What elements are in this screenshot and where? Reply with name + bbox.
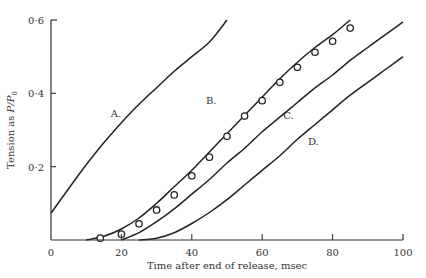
plot-area: A.B.C.D. xyxy=(51,20,403,241)
curve-label-b: B. xyxy=(206,95,217,106)
curve-label-a: A. xyxy=(110,108,121,119)
y-tick-label: 0·6 xyxy=(28,15,44,26)
x-tick-label: 100 xyxy=(393,247,412,258)
data-point-circle xyxy=(189,173,195,179)
data-point-circle xyxy=(329,38,335,44)
x-tick-label: 40 xyxy=(185,247,198,258)
y-axis-title-prefix: Tension as xyxy=(5,112,16,169)
data-point-circle xyxy=(136,221,142,227)
data-point-circle xyxy=(312,49,318,55)
y-axis-title-var: P/P xyxy=(5,95,16,113)
curve-d xyxy=(139,57,403,240)
curve-label-d: D. xyxy=(308,136,319,147)
data-point-circle xyxy=(241,113,247,119)
data-point-circle xyxy=(206,154,212,160)
x-tick-label: 0 xyxy=(48,247,54,258)
y-axis-title-sub: 0 xyxy=(11,91,19,95)
curve-c xyxy=(121,22,403,240)
data-point-circle xyxy=(259,97,265,103)
axes: 020406080100 0·20·40·6 Time after end of… xyxy=(5,15,413,271)
data-point-circle xyxy=(171,192,177,198)
y-tick-label: 0·4 xyxy=(28,88,44,99)
x-tick-label: 80 xyxy=(326,247,339,258)
curve-label-c: C. xyxy=(283,110,293,121)
x-tick-label: 60 xyxy=(256,247,269,258)
y-axis-title: Tension as P/P0 xyxy=(5,91,19,169)
x-tick-label: 20 xyxy=(115,247,128,258)
data-point-circle xyxy=(153,207,159,213)
chart: A.B.C.D. 020406080100 0·20·40·6 Time aft… xyxy=(0,0,426,278)
x-axis-title: Time after end of release, msec xyxy=(147,260,308,271)
curve-a xyxy=(51,20,227,213)
data-point-circle xyxy=(347,25,353,31)
data-point-circle xyxy=(294,64,300,70)
y-tick-label: 0·2 xyxy=(28,162,44,173)
data-point-circle xyxy=(277,79,283,85)
y-ticks: 0·20·40·6 xyxy=(28,15,56,173)
data-point-circle xyxy=(224,133,230,139)
